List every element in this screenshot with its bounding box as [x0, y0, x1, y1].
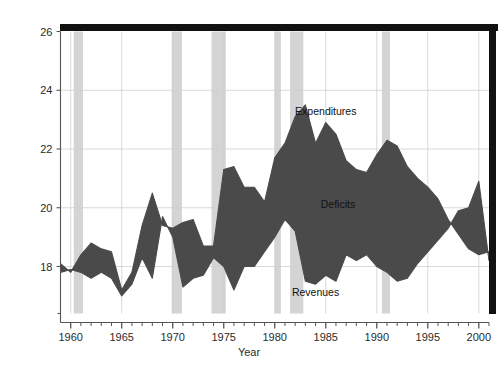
- x-tick-label: 1985: [314, 331, 338, 343]
- x-tick-label: 1975: [211, 331, 235, 343]
- x-tick-label: 2000: [467, 331, 491, 343]
- annotation-revenues: Revenues: [292, 286, 339, 298]
- annotation-expenditures: Expenditures: [295, 105, 356, 117]
- budget-area-chart: 1820222426 19601965197019751980198519901…: [0, 0, 498, 379]
- x-tick-label: 1990: [365, 331, 389, 343]
- x-tick-label: 1965: [109, 331, 133, 343]
- x-tick-label: 1960: [58, 331, 82, 343]
- x-tick-label: 1980: [263, 331, 287, 343]
- right-rule: [489, 24, 496, 314]
- y-tick-label: 20: [40, 202, 52, 214]
- y-tick-label: 18: [40, 261, 52, 273]
- top-rule: [60, 24, 498, 31]
- x-axis-title: Year: [238, 346, 261, 358]
- y-tick-label: 26: [40, 26, 52, 38]
- x-tick-labels-group: 196019651970197519801985199019952000: [58, 331, 491, 343]
- chart-figure: 1820222426 19601965197019751980198519901…: [0, 0, 498, 379]
- annotation-deficits: Deficits: [321, 198, 355, 210]
- y-tick-label: 24: [40, 84, 52, 96]
- x-tick-label: 1970: [160, 331, 184, 343]
- y-tick-label: 22: [40, 143, 52, 155]
- x-tick-label: 1995: [416, 331, 440, 343]
